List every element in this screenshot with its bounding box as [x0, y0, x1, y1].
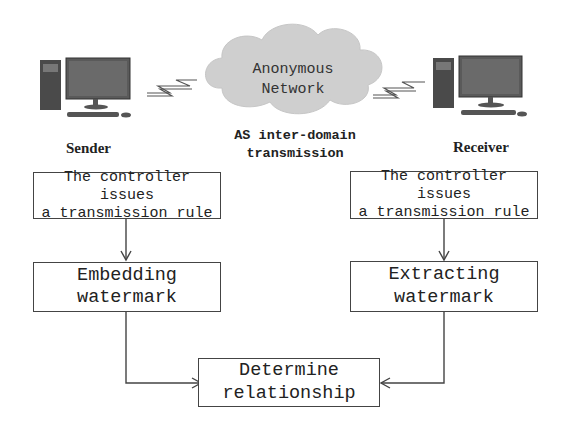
extracting-line2: watermark — [394, 287, 494, 309]
receiver-controller-box: The controller issues a transmission rul… — [350, 171, 538, 219]
determine-line2: relationship — [222, 383, 355, 405]
receiver-controller-line2: a transmission rule — [358, 204, 529, 222]
sender-controller-line2: a transmission rule — [41, 205, 212, 223]
network-caption-line2: transmission — [215, 145, 375, 163]
determine-relationship-box: Determine relationship — [198, 358, 380, 407]
receiver-controller-line1: The controller issues — [351, 168, 537, 204]
sender-label: Sender — [66, 140, 111, 157]
diagram-canvas: Anonymous Network AS inter-domain transm… — [0, 0, 567, 424]
network-title: Anonymous Network — [228, 60, 358, 99]
sender-computer-icon — [38, 55, 138, 120]
embedding-line1: Embedding — [77, 265, 177, 287]
receiver-label: Receiver — [453, 139, 509, 156]
network-caption: AS inter-domain transmission — [215, 127, 375, 163]
wireless-link-icon-right — [373, 82, 425, 98]
extracting-watermark-box: Extracting watermark — [350, 261, 538, 312]
network-title-line2: Network — [228, 80, 358, 100]
sender-controller-line1: The controller issues — [34, 169, 220, 205]
network-title-line1: Anonymous — [228, 60, 358, 80]
wireless-link-icon-left — [147, 80, 197, 96]
arrow-embedding-to-determine — [126, 312, 201, 383]
receiver-computer-icon — [430, 55, 530, 120]
determine-line1: Determine — [239, 360, 339, 382]
embedding-watermark-box: Embedding watermark — [33, 262, 221, 312]
arrow-extracting-to-determine — [381, 312, 444, 383]
network-caption-line1: AS inter-domain — [215, 127, 375, 145]
sender-controller-box: The controller issues a transmission rul… — [33, 172, 221, 219]
extracting-line1: Extracting — [388, 264, 499, 286]
embedding-line2: watermark — [77, 287, 177, 309]
